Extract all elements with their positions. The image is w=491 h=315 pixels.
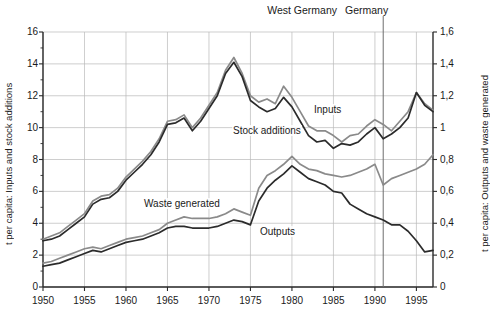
x-tick-label: 1955 [67,295,101,306]
y-axis-right-title: t per capita: Outputs and waste generate… [479,48,490,280]
x-tick-label: 1950 [26,295,60,306]
x-tick-label: 1965 [150,295,184,306]
y-right-tick-label: 0,6 [440,185,466,196]
series-label-outputs: Outputs [259,226,296,237]
series-label-waste-generated: Waste generated [143,198,221,209]
y-axis-left-title: t per capita: Inputs and stock additions [3,56,14,271]
y-left-tick-label: 8 [16,154,38,165]
y-right-tick-label: 0,2 [440,249,466,260]
series-label-inputs: Inputs [313,104,342,115]
x-tick-label: 1985 [316,295,350,306]
y-left-tick-label: 0 [16,281,38,292]
y-right-tick-label: 1,4 [440,58,466,69]
y-left-tick-label: 14 [16,58,38,69]
series-label-stock-additions: Stock additions [232,125,302,136]
series-line-outputs [43,166,433,266]
y-right-tick-label: 0 [440,281,466,292]
y-right-tick-label: 0,4 [440,217,466,228]
y-right-tick-label: 0,8 [440,154,466,165]
x-tick-label: 1970 [192,295,226,306]
x-tick-label: 1995 [399,295,433,306]
y-left-tick-label: 16 [16,26,38,37]
y-left-tick-label: 10 [16,122,38,133]
series-line-inputs [43,58,433,240]
y-left-tick-label: 6 [16,185,38,196]
chart-figure: West Germany Germany t per capita: Input… [0,0,491,315]
y-left-tick-label: 4 [16,217,38,228]
region-label-germany: Germany [345,4,388,16]
y-left-tick-label: 12 [16,90,38,101]
series-line-waste-generated [43,155,433,263]
y-right-tick-label: 1,2 [440,90,466,101]
x-tick-label: 1960 [109,295,143,306]
x-tick-label: 1980 [275,295,309,306]
series-line-stock-additions [43,62,433,241]
y-right-tick-label: 1 [440,122,466,133]
y-right-tick-label: 1,6 [440,26,466,37]
y-left-tick-label: 2 [16,249,38,260]
x-tick-label: 1990 [358,295,392,306]
chart-plot-area [0,0,491,315]
region-period-header: West Germany Germany [255,4,485,24]
x-tick-label: 1975 [233,295,267,306]
region-label-west-germany: West Germany [267,4,337,16]
